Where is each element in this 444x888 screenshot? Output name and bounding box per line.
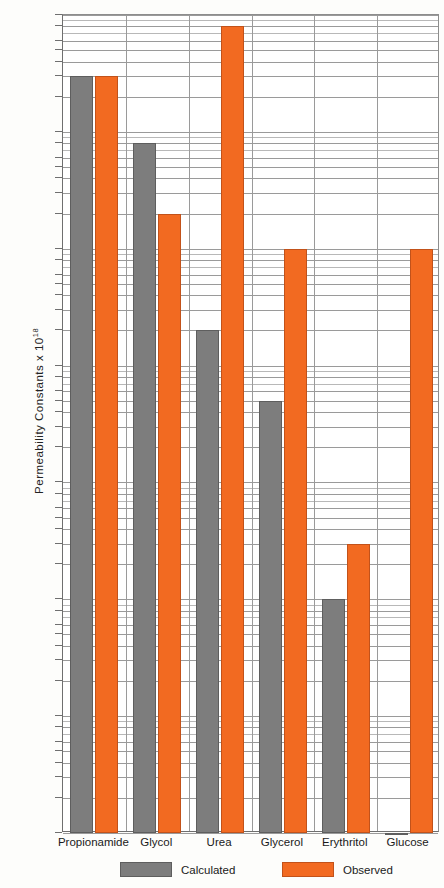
gridline bbox=[63, 76, 438, 77]
gridline-minor bbox=[63, 150, 438, 151]
y-tick-mark bbox=[55, 750, 62, 751]
bar-observed-glucose bbox=[410, 249, 433, 833]
y-tick-mark bbox=[55, 517, 62, 518]
y-tick-mark bbox=[55, 376, 62, 377]
gridline-minor bbox=[63, 501, 438, 502]
y-tick-mark bbox=[55, 776, 62, 777]
y-tick-mark bbox=[55, 528, 62, 529]
y-tick-mark bbox=[55, 400, 62, 401]
gridline-minor bbox=[63, 33, 438, 34]
gridline bbox=[63, 625, 438, 626]
gridline bbox=[63, 777, 438, 778]
y-tick-mark bbox=[55, 493, 62, 494]
gridline bbox=[63, 377, 438, 378]
x-tick-label-urea: Urea bbox=[207, 836, 232, 848]
gridline bbox=[63, 310, 438, 311]
gridline-minor bbox=[63, 371, 438, 372]
category-separator bbox=[314, 15, 315, 831]
gridline-minor bbox=[63, 605, 438, 606]
gridline bbox=[63, 50, 438, 51]
y-tick-mark bbox=[55, 192, 62, 193]
y-tick-mark bbox=[55, 624, 62, 625]
legend-item-calculated: Calculated bbox=[120, 862, 235, 877]
gridline-minor bbox=[63, 488, 438, 489]
gridline-minor bbox=[63, 137, 438, 138]
x-tick-label-glycerol: Glycerol bbox=[261, 836, 303, 848]
y-tick-mark bbox=[55, 96, 62, 97]
y-tick-mark bbox=[55, 446, 62, 447]
y-tick-mark bbox=[55, 274, 62, 275]
y-tick-mark bbox=[55, 645, 62, 646]
category-separator bbox=[252, 15, 253, 831]
bar-calculated-propionamide bbox=[70, 76, 93, 833]
bar-calculated-glycerol bbox=[259, 401, 282, 833]
gridline-minor bbox=[63, 734, 438, 735]
y-tick-mark bbox=[55, 40, 62, 41]
legend-label-calculated: Calculated bbox=[181, 864, 235, 876]
bar-calculated-erythritol bbox=[322, 599, 345, 833]
gridline bbox=[63, 646, 438, 647]
gridline-minor bbox=[63, 384, 438, 385]
plot-area bbox=[62, 14, 439, 832]
gridline bbox=[63, 611, 438, 612]
x-tick-label-erythritol: Erythritol bbox=[322, 836, 367, 848]
y-tick-mark bbox=[55, 61, 62, 62]
y-tick-mark bbox=[55, 797, 62, 798]
gridline bbox=[63, 275, 438, 276]
gridline bbox=[63, 751, 438, 752]
gridline bbox=[63, 178, 438, 179]
y-tick-mark bbox=[55, 49, 62, 50]
y-tick-mark bbox=[55, 680, 62, 681]
y-axis-title-text: Permeability Constants x 10 bbox=[33, 337, 45, 494]
category-separator bbox=[377, 15, 378, 831]
x-tick-label-glucose: Glucose bbox=[386, 836, 428, 848]
legend-swatch-calculated bbox=[120, 862, 172, 877]
y-tick-mark bbox=[55, 659, 62, 660]
gridline-minor bbox=[63, 721, 438, 722]
gridline bbox=[63, 742, 438, 743]
bar-observed-glycerol bbox=[284, 249, 307, 833]
y-tick-mark bbox=[55, 832, 62, 833]
y-tick-mark bbox=[55, 507, 62, 508]
gridline bbox=[63, 833, 438, 834]
gridline bbox=[63, 798, 438, 799]
gridline bbox=[63, 41, 438, 42]
gridline bbox=[63, 330, 438, 331]
bar-calculated-glycol bbox=[133, 143, 156, 833]
bar-observed-propionamide bbox=[95, 76, 118, 833]
legend-item-observed: Observed bbox=[282, 862, 393, 877]
gridline bbox=[63, 249, 438, 250]
gridline bbox=[63, 681, 438, 682]
category-separator bbox=[126, 15, 127, 831]
gridline bbox=[63, 158, 438, 159]
y-tick-mark bbox=[55, 726, 62, 727]
y-tick-mark bbox=[55, 411, 62, 412]
y-tick-mark bbox=[55, 259, 62, 260]
gridline-minor bbox=[63, 20, 438, 21]
gridline bbox=[63, 447, 438, 448]
gridline bbox=[63, 366, 438, 367]
y-tick-mark bbox=[55, 563, 62, 564]
gridline bbox=[63, 529, 438, 530]
gridline bbox=[63, 508, 438, 509]
y-tick-mark bbox=[55, 294, 62, 295]
y-tick-mark bbox=[55, 283, 62, 284]
gridline bbox=[63, 564, 438, 565]
bar-observed-erythritol bbox=[347, 544, 370, 833]
gridline bbox=[63, 482, 438, 483]
legend-label-observed: Observed bbox=[343, 864, 393, 876]
gridline bbox=[63, 599, 438, 600]
gridline bbox=[63, 716, 438, 717]
y-tick-mark bbox=[55, 390, 62, 391]
gridline bbox=[63, 412, 438, 413]
gridline bbox=[63, 97, 438, 98]
x-tick-label-propionamide: Propionamide bbox=[58, 836, 129, 848]
gridline bbox=[63, 494, 438, 495]
gridline bbox=[63, 727, 438, 728]
gridline bbox=[63, 143, 438, 144]
y-tick-mark bbox=[55, 426, 62, 427]
bar-observed-glycol bbox=[158, 214, 181, 833]
y-tick-mark bbox=[55, 598, 62, 599]
gridline bbox=[63, 132, 438, 133]
gridline bbox=[63, 763, 438, 764]
